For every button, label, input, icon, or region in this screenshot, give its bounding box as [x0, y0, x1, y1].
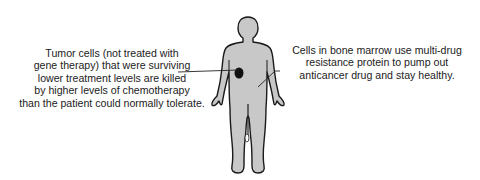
annotation-line: resistance protein to pump out: [282, 56, 472, 68]
bone-marrow-annotation: Cells in bone marrow use multi-drug resi…: [282, 44, 472, 81]
tumor-mark: [235, 68, 244, 79]
annotation-line: Tumor cells (not treated with: [12, 47, 212, 59]
tumor-cells-annotation: Tumor cells (not treated with gene thera…: [12, 47, 212, 109]
annotation-line: than the patient could normally tolerate…: [12, 97, 212, 109]
annotation-line: gene therapy) that were surviving: [12, 59, 212, 71]
annotation-line: by higher levels of chemotherapy: [12, 84, 212, 96]
annotation-line: anticancer drug and stay healthy.: [282, 69, 472, 81]
annotation-line: Cells in bone marrow use multi-drug: [282, 44, 472, 56]
annotation-line: lower treatment levels are killed: [12, 72, 212, 84]
human-body-silhouette: [212, 17, 284, 173]
